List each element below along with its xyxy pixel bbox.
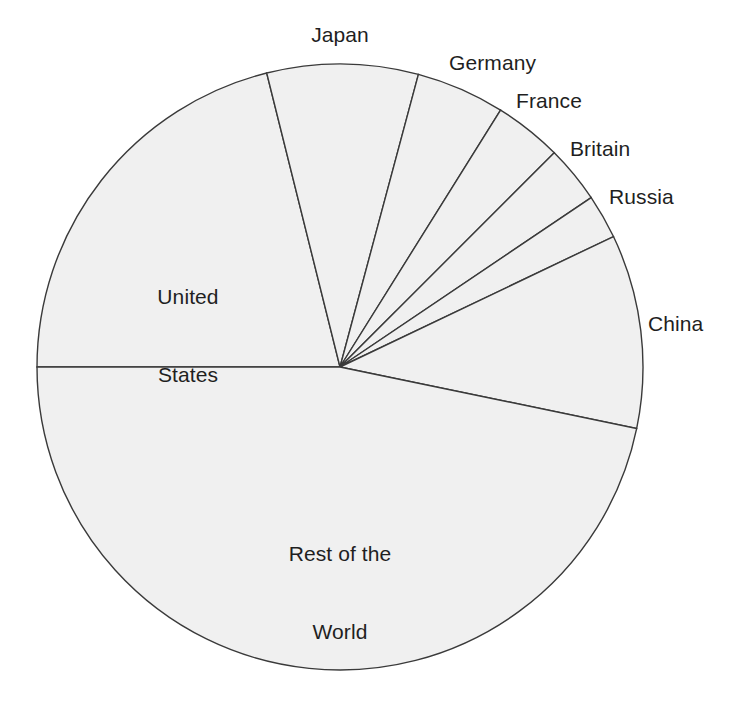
pie-label-rest-of-the-world-line2: World bbox=[250, 619, 430, 645]
pie-label-germany: Germany bbox=[449, 50, 609, 76]
pie-label-russia: Russia bbox=[609, 184, 746, 210]
pie-label-france: France bbox=[516, 88, 656, 114]
pie-label-rest-of-the-world-line1: Rest of the bbox=[250, 541, 430, 567]
pie-label-rest-of-the-world: Rest of the World bbox=[250, 489, 430, 697]
pie-label-united-states-line1: United bbox=[118, 284, 258, 310]
pie-label-china: China bbox=[648, 311, 746, 337]
pie-label-britain: Britain bbox=[570, 136, 710, 162]
pie-label-united-states: United States bbox=[118, 232, 258, 440]
pie-chart: United States Japan Germany France Brita… bbox=[0, 0, 746, 709]
pie-label-japan: Japan bbox=[275, 22, 405, 48]
pie-label-united-states-line2: States bbox=[118, 362, 258, 388]
